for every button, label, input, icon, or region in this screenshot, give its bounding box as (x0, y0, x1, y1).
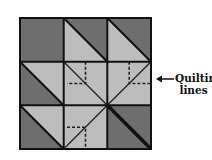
label-line-2: lines (175, 84, 212, 96)
quilting-lines-label: Quilting lines (175, 72, 212, 96)
cell-r0-c0 (20, 18, 64, 62)
label-line-1: Quilting (175, 72, 212, 84)
quilt-block-diagram (0, 0, 160, 160)
left-arrow-icon (156, 75, 174, 83)
